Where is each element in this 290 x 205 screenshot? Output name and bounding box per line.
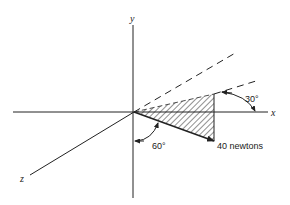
angle-30-label: 30° bbox=[245, 94, 259, 104]
force-vector-diagram: y x z 40 newtons 30° 60° bbox=[0, 0, 290, 205]
hatched-projection-region bbox=[134, 94, 214, 141]
z-axis bbox=[30, 112, 134, 175]
y-axis-label: y bbox=[129, 13, 135, 24]
force-magnitude-label: 40 newtons bbox=[217, 141, 264, 151]
angle-arc-30-start-arrow bbox=[222, 92, 232, 93]
angle-60-label: 60° bbox=[152, 141, 166, 151]
dashed-line-lower bbox=[214, 81, 256, 94]
angle-arc-60 bbox=[136, 123, 158, 141]
z-axis-label: z bbox=[19, 173, 24, 184]
x-axis-label: x bbox=[270, 107, 276, 118]
